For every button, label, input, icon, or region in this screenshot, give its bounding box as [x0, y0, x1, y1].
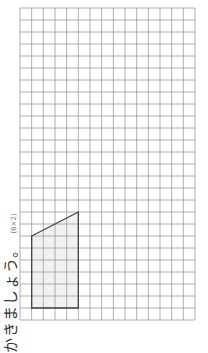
graph-paper-grid[interactable] — [0, 0, 208, 345]
